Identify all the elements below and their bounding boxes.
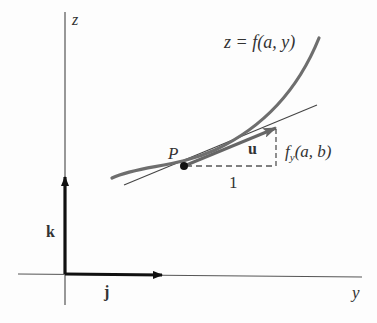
z-axis-label: z [72, 12, 78, 28]
diagram-canvas: z y k j u z = f(a, y) P 1 fy(a, b) [0, 0, 377, 323]
j-vector [65, 274, 162, 275]
j-vector-label: j [104, 284, 109, 300]
u-vector [184, 128, 276, 166]
point-p-marker [180, 162, 188, 170]
run-label: 1 [229, 174, 238, 191]
rise-label: fy(a, b) [285, 143, 331, 163]
u-vector-label: u [248, 141, 257, 157]
rise-label-args: (a, b) [295, 142, 332, 161]
y-axis-label: y [352, 284, 360, 301]
curve-label: z = f(a, y) [224, 33, 295, 51]
k-vector-label: k [46, 224, 55, 240]
point-p-label: P [168, 145, 178, 162]
